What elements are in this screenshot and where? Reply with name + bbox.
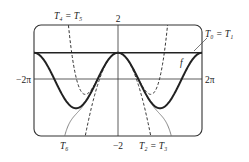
t2-t3-label: T₂ = T₃: [139, 141, 167, 151]
xmax-label: 2π: [205, 75, 215, 85]
xmin-label: −2π: [16, 75, 31, 85]
t4-t5-label: T₄ = T₅: [54, 11, 82, 21]
f-label: f: [180, 58, 184, 68]
t0-t1-label: T₀ = T₁: [205, 29, 233, 39]
t0-leader-line: [194, 38, 207, 51]
ymin-label: −2: [113, 141, 123, 151]
ymax-label: 2: [116, 14, 121, 24]
taylor-polynomial-chart: 2 −2 −2π 2π T₄ = T₅ T₀ = T₁ f T₆ T₂ = T₃: [0, 0, 249, 162]
t6-label: T₆: [60, 141, 69, 151]
